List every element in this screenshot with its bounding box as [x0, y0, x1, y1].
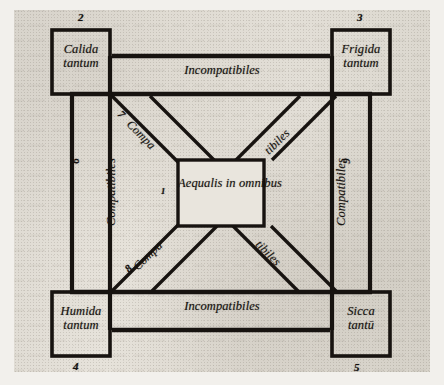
marker-bottom-right: 5: [354, 361, 360, 373]
center-line1: Aequalis in: [178, 176, 236, 190]
band-label-right: Compatibiles: [334, 127, 348, 257]
marker-band-right: 9: [340, 152, 352, 170]
diagonal-lower-right: [233, 226, 336, 291]
center-line2: omnibus: [239, 176, 282, 190]
corner-bottom-left-line2: tantum: [52, 318, 110, 332]
corner-top-left-line1: Calida: [64, 42, 99, 56]
marker-band-left: 6: [69, 152, 81, 170]
marker-bottom-left: 4: [73, 360, 79, 372]
diagonal-lower-left: [112, 224, 219, 291]
band-label-bottom: Incompatibiles: [0, 299, 444, 313]
center-label: Aequalis in omnibus: [178, 176, 264, 190]
corner-top-right-line1: Frigida: [342, 42, 381, 56]
marker-top-right: 3: [357, 11, 363, 23]
box-center: [178, 160, 264, 226]
marker-center: 1: [161, 186, 165, 196]
corner-bottom-right-line2: tantū: [332, 318, 390, 332]
band-label-top: Incompatibiles: [0, 63, 444, 77]
band-label-left: Compatibiles: [104, 127, 118, 257]
marker-top-left: 2: [78, 11, 84, 23]
figure-plate: Calida tantum Frigida tantum Humida tant…: [0, 0, 444, 385]
